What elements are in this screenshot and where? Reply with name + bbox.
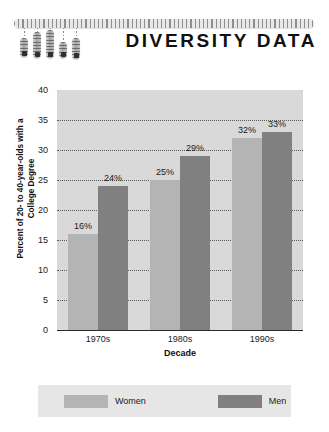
- hanging-bar-bulb: [74, 53, 79, 58]
- hanging-bar-bulb: [35, 52, 40, 57]
- y-axis-tick-label: 0: [43, 325, 48, 335]
- bar-women-1980s[interactable]: 25%: [150, 180, 180, 330]
- bar-value-label: 29%: [186, 143, 204, 153]
- y-axis-tick-label: 5: [43, 295, 48, 305]
- y-axis-tick-label: 15: [38, 235, 48, 245]
- bar-value-label: 16%: [74, 221, 92, 231]
- legend-swatch-women: [64, 395, 108, 408]
- y-axis-tick-label: 35: [38, 115, 48, 125]
- legend-swatch-men: [218, 395, 262, 408]
- hanging-bar-tube: [59, 42, 67, 58]
- legend-label-women: Women: [115, 396, 146, 406]
- x-axis-line: [57, 330, 303, 331]
- bar-groups: 16%24%25%29%32%33%: [57, 90, 303, 330]
- x-axis-title: Decade: [57, 348, 303, 358]
- x-axis-category-labels: 1970s1980s1990s: [57, 334, 303, 344]
- bar-group: 32%33%: [226, 90, 298, 330]
- hanging-bar: [72, 28, 80, 59]
- hanging-bar-line: [24, 28, 25, 38]
- legend-item-women: Women: [64, 395, 146, 408]
- plot-area: 16%24%25%29%32%33%: [57, 90, 303, 330]
- y-axis-ticks: 0510152025303540: [0, 90, 53, 330]
- bar-men-1970s[interactable]: 24%: [98, 186, 128, 330]
- hanging-bar-bulb: [22, 51, 27, 56]
- bar-women-1970s[interactable]: 16%: [68, 234, 98, 330]
- header-rail-graphic: [14, 19, 314, 28]
- hanging-bar-bulb: [48, 52, 53, 57]
- hanging-bar: [33, 28, 41, 58]
- bar-men-1980s[interactable]: 29%: [180, 156, 210, 330]
- hanging-bar-tube: [46, 30, 54, 58]
- y-axis-tick-label: 40: [38, 85, 48, 95]
- y-axis-tick-label: 30: [38, 145, 48, 155]
- bar-group: 25%29%: [144, 90, 216, 330]
- y-axis-tick-label: 10: [38, 265, 48, 275]
- hanging-bar-tube: [33, 32, 41, 58]
- hanging-bar: [59, 28, 67, 58]
- bar-women-1990s[interactable]: 32%: [232, 138, 262, 330]
- header-banner: DIVERSITY DATA: [0, 0, 329, 78]
- bar-group: 16%24%: [62, 90, 134, 330]
- hanging-bar-line: [63, 28, 64, 42]
- x-axis-category-1990s: 1990s: [226, 334, 298, 344]
- page-title: DIVERSITY DATA: [125, 30, 317, 52]
- hanging-bar-bulb: [61, 52, 66, 57]
- bar-value-label: 32%: [238, 125, 256, 135]
- hanging-bar-line: [76, 28, 77, 38]
- legend: Women Men: [38, 385, 291, 417]
- bar-value-label: 25%: [156, 167, 174, 177]
- hanging-bar: [20, 28, 28, 57]
- x-axis-category-1980s: 1980s: [144, 334, 216, 344]
- bar-value-label: 33%: [268, 119, 286, 129]
- hanging-bar-tube: [20, 38, 28, 57]
- legend-label-men: Men: [269, 396, 287, 406]
- x-axis-category-1970s: 1970s: [62, 334, 134, 344]
- bar-chart: Percent of 20- to 40-year-olds with a Co…: [0, 78, 329, 360]
- bar-men-1990s[interactable]: 33%: [262, 132, 292, 330]
- hanging-bar: [46, 28, 54, 58]
- hanging-bar-tube: [72, 38, 80, 59]
- y-axis-tick-label: 25: [38, 175, 48, 185]
- y-axis-tick-label: 20: [38, 205, 48, 215]
- legend-item-men: Men: [218, 395, 287, 408]
- bar-value-label: 24%: [104, 173, 122, 183]
